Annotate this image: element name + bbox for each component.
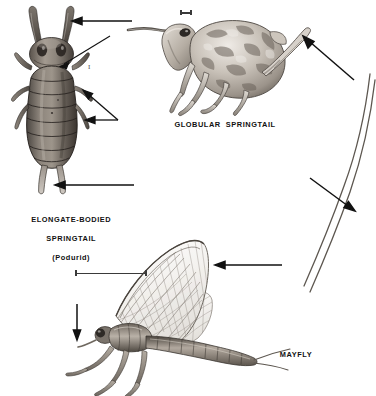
figure-mayfly [60,230,310,396]
scale-bar-mayfly-cap-right [145,270,147,277]
body-shape [27,66,78,168]
scale-bar-globular-cap-right [190,10,192,15]
cerci-arrow [308,176,364,220]
legs-double-arrow [83,90,118,124]
caption-globular-springtail: GLOBULAR SPRINGTAIL [150,120,300,129]
scale-bar-globular-cap-left [180,10,182,15]
illustration-plate: I ELONGATE-BODIED SPRINGTAIL (Podurid) [0,0,376,396]
antenna-left-shape [29,6,42,44]
legs-shape [66,346,147,396]
head-arrow-mayfly [68,302,88,344]
figure-elongate-springtail [0,0,140,200]
thorax-shape [109,323,152,353]
antenna-right-shape [62,6,74,44]
caption-line-1: ELONGATE-BODIED [31,215,111,224]
furcula-arrow-elongate [46,176,136,196]
caption-mayfly: MAYFLY [256,350,336,359]
scale-marker-elongate: I [88,63,90,71]
scale-bar-mayfly [75,273,147,275]
wing-arrow-mayfly [208,256,284,276]
scale-bar-mayfly-cap-left [75,270,77,277]
antenna-arrow [72,17,132,24]
